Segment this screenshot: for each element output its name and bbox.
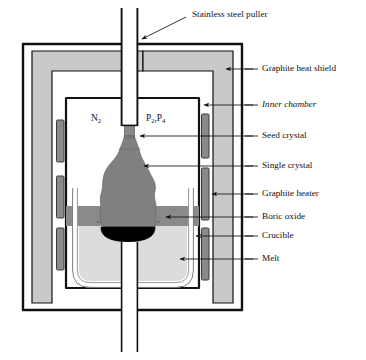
crystal-growth-diagram: N2 P2,P4 [0,0,366,360]
puller-rod-upper [121,8,138,126]
graphite-heater-bar-left-2 [57,176,65,218]
label-graphite-heat-shield: Graphite heat shield [262,63,336,73]
leader-stainless-steel-puller [142,17,186,39]
label-melt: Melt [262,253,280,263]
label-boric-oxide: Boric oxide [262,211,305,221]
label-crucible: Crucible [262,230,294,240]
graphite-heater-bar-left-3 [57,228,65,270]
label-seed-crystal: Seed crystal [262,130,307,140]
label-stainless-steel-puller: Stainless steel puller [192,9,268,19]
graphite-heater-bar-left-1 [57,120,65,162]
label-inner-chamber: Inner chamber [261,99,317,109]
figure-root: N2 P2,P4 [0,0,366,360]
label-single-crystal: Single crystal [262,160,313,170]
puller-shaft-lower [121,242,138,352]
graphite-heater-bar-right-2 [202,168,210,220]
label-graphite-heater: Graphite heater [262,188,319,198]
